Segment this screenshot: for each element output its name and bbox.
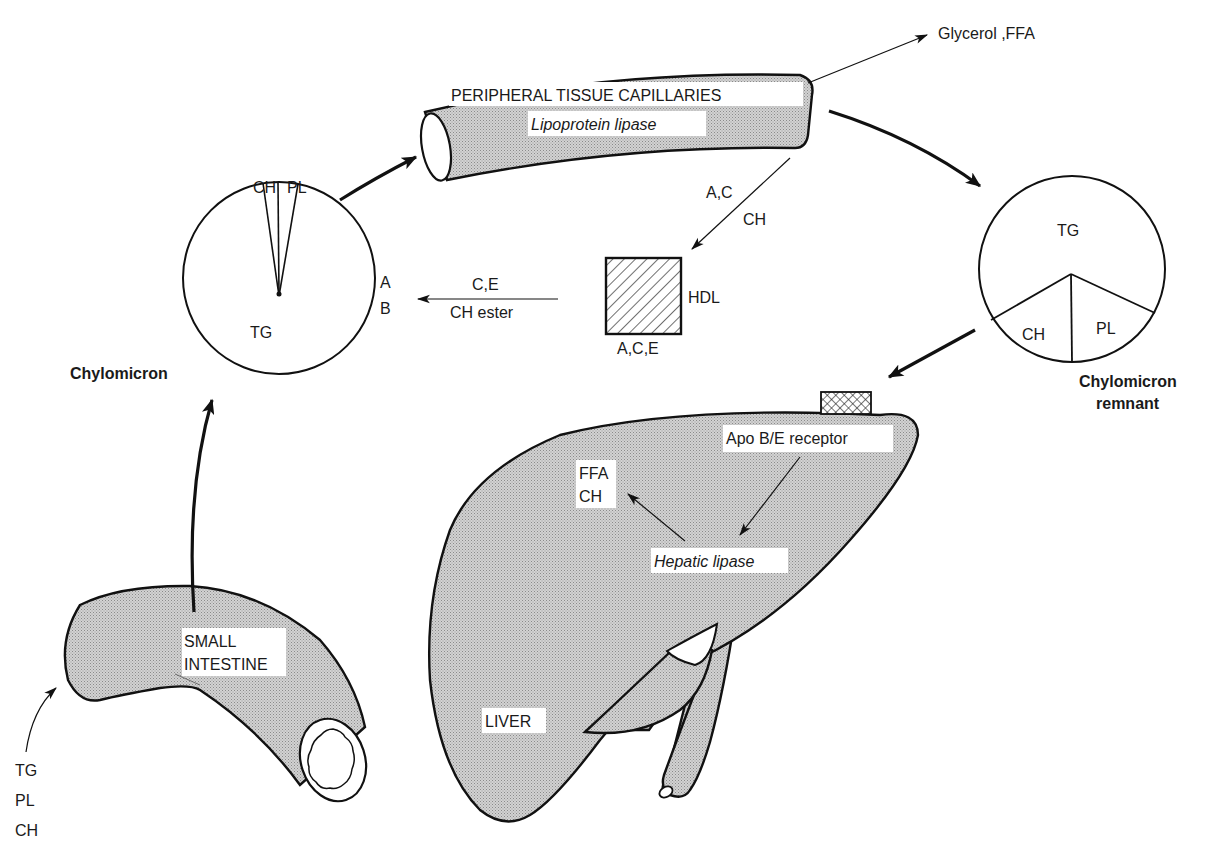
liver-organ [429, 413, 918, 822]
chylomicron-remnant-particle: TG CH PL [979, 176, 1165, 362]
remnant-tg-label: TG [1057, 222, 1079, 239]
glycerol-ffa-label: Glycerol ,FFA [938, 25, 1035, 42]
transfer-from-hdl-bottom-label: CH ester [450, 304, 514, 321]
remnant-pl-label: PL [1096, 320, 1116, 337]
capillary-tube: PERIPHERAL TISSUE CAPILLARIES Lipoprotei… [416, 74, 812, 182]
remnant-name-line2: remnant [1096, 395, 1160, 412]
intestine-to-chylomicron-arrow [192, 400, 212, 612]
remnant-name-line1: Chylomicron [1079, 373, 1177, 390]
lipoprotein-lipase-label: Lipoprotein lipase [531, 116, 657, 133]
capillaries-to-remnant-arrow [829, 111, 980, 186]
remnant-ch-label: CH [1022, 326, 1045, 343]
apo-be-receptor-box [821, 392, 871, 414]
chylomicron-pl-label: PL [287, 179, 307, 196]
glycerol-ffa-arrow [808, 35, 927, 83]
liver-label: LIVER [485, 713, 531, 730]
chylomicron-ch-label: CH [253, 179, 276, 196]
chylomicron-apo-b-label: B [380, 300, 391, 317]
transfer-from-hdl-top-label: C,E [472, 276, 499, 293]
intestine-input-ch: CH [15, 822, 38, 839]
liver-ffa-label: FFA [579, 465, 609, 482]
capillaries-title: PERIPHERAL TISSUE CAPILLARIES [451, 87, 721, 104]
intestine-input-pl: PL [15, 792, 35, 809]
capillaries-to-hdl-arrow [692, 158, 790, 249]
intestine-input-tg: TG [15, 762, 37, 779]
lipoprotein-metabolism-diagram: PERIPHERAL TISSUE CAPILLARIES Lipoprotei… [0, 0, 1205, 849]
hepatic-lipase-label: Hepatic lipase [654, 553, 755, 570]
transfer-to-hdl-bottom-label: CH [743, 211, 766, 228]
liver-ch-label: CH [579, 488, 602, 505]
transfer-to-hdl-top-label: A,C [706, 184, 733, 201]
chylomicron-tg-label: TG [250, 324, 272, 341]
chylomicron-name-label: Chylomicron [70, 365, 168, 382]
chylomicron-to-capillaries-arrow [340, 157, 416, 200]
small-intestine-label-line1: SMALL [184, 633, 237, 650]
remnant-to-liver-arrow [889, 330, 975, 377]
apo-be-receptor-label: Apo B/E receptor [726, 430, 849, 447]
chylomicron-apo-a-label: A [380, 274, 391, 291]
small-intestine-organ: SMALL INTESTINE [65, 586, 377, 810]
hdl-apoproteins-label: A,C,E [617, 340, 659, 357]
chylomicron-wedge-divider [278, 182, 279, 296]
remnant-divider [1071, 274, 1072, 362]
hdl-label: HDL [688, 289, 720, 306]
dietary-input-arrow [26, 688, 56, 752]
small-intestine-label-line2: INTESTINE [184, 656, 268, 673]
chylomicron-particle: CH PL TG A B [183, 179, 391, 374]
hdl-particle: HDL A,C,E [606, 258, 720, 357]
